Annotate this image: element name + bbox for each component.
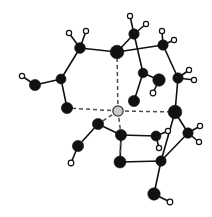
hydrogen-inner-right xyxy=(150,90,156,96)
hydrogen-lower-right-a xyxy=(165,128,170,133)
hydrogen-right-a xyxy=(186,67,191,72)
lower-right-atom xyxy=(151,131,161,141)
lower-left-atom xyxy=(72,140,83,151)
hydrogen-top-b xyxy=(143,21,148,26)
inner-lower-right-atom xyxy=(128,95,139,106)
far-left-atom xyxy=(29,79,40,90)
bottom-center-atom xyxy=(115,129,126,140)
hydrogen-lower-left xyxy=(68,160,74,166)
upper-left-atom xyxy=(75,43,86,54)
right-upper-atom xyxy=(173,73,183,83)
central-hub-atom xyxy=(113,106,123,116)
molecule-figure xyxy=(0,0,212,217)
hydrogen-upper-right-b xyxy=(171,37,176,42)
dashed-bond-hub-d1 xyxy=(117,52,118,111)
bottom-atom xyxy=(114,156,126,168)
far-lower-right-atom xyxy=(183,128,193,138)
left-upper-branch-atom xyxy=(56,74,66,84)
hydrogen-far-right-a xyxy=(197,123,202,128)
molecule-canvas xyxy=(0,0,212,217)
inner-right-atom xyxy=(138,68,148,78)
top-center-large-atom xyxy=(110,45,124,59)
hydrogen-lower-right-b xyxy=(156,145,161,150)
hydrogen-upper-left-a xyxy=(66,30,71,35)
hydrogen-right-b xyxy=(191,77,196,82)
hydrogen-top-a xyxy=(127,13,132,18)
inner-right-large-atom xyxy=(153,74,165,86)
inner-lower-left-atom xyxy=(92,118,103,129)
hydrogen-far-right-b xyxy=(196,139,201,144)
top-methyl-carbon xyxy=(129,29,139,39)
hydrogen-upper-left-b xyxy=(83,28,88,33)
upper-right-atom xyxy=(158,40,168,50)
hydrogen-far-left xyxy=(19,73,24,78)
right-middle-large-atom xyxy=(168,105,182,119)
hydrogen-upper-right-a xyxy=(159,28,164,33)
left-middle-atom xyxy=(61,102,72,113)
hydrogen-bottom-right xyxy=(167,199,173,205)
bottom-right-terminal-atom xyxy=(148,188,160,200)
bottom-right-atom xyxy=(156,156,166,166)
